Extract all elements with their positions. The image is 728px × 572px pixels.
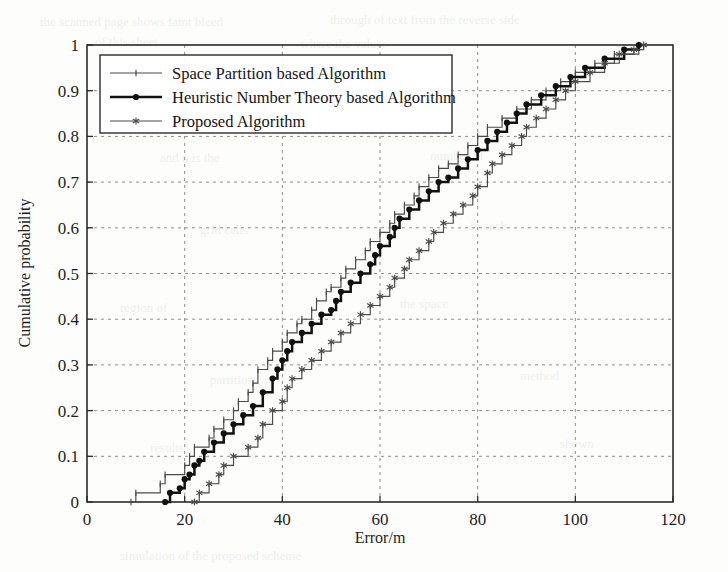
series-marker <box>416 197 422 203</box>
y-tick-label: 0.2 <box>58 402 79 421</box>
series-marker <box>514 110 520 116</box>
x-tick-label: 120 <box>660 510 686 529</box>
series-marker <box>436 179 442 185</box>
y-tick-label: 1 <box>71 36 80 55</box>
series-marker <box>465 156 471 162</box>
y-tick-label: 0 <box>71 493 80 512</box>
series-marker <box>377 243 383 249</box>
series-marker <box>396 216 402 222</box>
series-marker <box>221 430 227 436</box>
series-marker <box>274 366 280 372</box>
series-marker <box>269 376 275 382</box>
series-marker <box>475 147 481 153</box>
y-tick-label: 0.7 <box>58 173 80 192</box>
y-axis-label: Cumulative probability <box>16 199 34 348</box>
series-marker <box>318 312 324 318</box>
y-tick-label: 0.1 <box>58 447 79 466</box>
x-axis-label: Error/m <box>355 529 406 546</box>
x-tick-label: 60 <box>372 510 389 529</box>
series-marker <box>289 339 295 345</box>
series-marker <box>357 270 363 276</box>
series-marker <box>279 357 285 363</box>
series-marker <box>338 289 344 295</box>
series-marker <box>196 458 202 464</box>
series-marker <box>230 421 236 427</box>
series-marker <box>484 138 490 144</box>
series-marker <box>191 462 197 468</box>
series-marker <box>538 92 544 98</box>
series-marker <box>445 174 451 180</box>
series-marker <box>348 280 354 286</box>
x-tick-label: 40 <box>274 510 291 529</box>
series-marker <box>455 165 461 171</box>
y-tick-labels: 00.10.20.30.40.50.60.70.80.91 <box>58 36 80 512</box>
series-marker <box>284 348 290 354</box>
series-marker <box>372 252 378 258</box>
y-tick-label: 0.6 <box>58 219 79 238</box>
series-marker <box>553 83 559 89</box>
series-marker <box>387 234 393 240</box>
series-marker <box>494 129 500 135</box>
x-tick-label: 100 <box>563 510 589 529</box>
cdf-figure: 020406080100120 00.10.20.30.40.50.60.70.… <box>0 0 728 572</box>
legend-label: Space Partition based Algorithm <box>172 64 386 83</box>
y-tick-label: 0.3 <box>58 356 79 375</box>
x-tick-label: 0 <box>83 510 92 529</box>
series-marker <box>260 389 266 395</box>
series-marker <box>426 188 432 194</box>
series-marker <box>299 330 305 336</box>
series-marker <box>406 206 412 212</box>
series-marker <box>504 120 510 126</box>
y-tick-label: 0.5 <box>58 265 79 284</box>
series-marker <box>167 490 173 496</box>
series-marker <box>392 225 398 231</box>
series-marker <box>182 476 188 482</box>
x-tick-label: 80 <box>469 510 486 529</box>
series-marker <box>177 485 183 491</box>
y-tick-label: 0.8 <box>58 127 79 146</box>
legend-label: Heuristic Number Theory based Algorithm <box>172 88 456 107</box>
series-marker <box>523 101 529 107</box>
series-marker <box>333 298 339 304</box>
series-marker <box>328 307 334 313</box>
chart-svg: 020406080100120 00.10.20.30.40.50.60.70.… <box>0 0 728 572</box>
series-marker <box>211 439 217 445</box>
series-marker <box>250 403 256 409</box>
series-marker <box>240 412 246 418</box>
x-tick-labels: 020406080100120 <box>83 510 686 529</box>
y-tick-label: 0.9 <box>58 82 79 101</box>
series-marker <box>367 261 373 267</box>
y-tick-label: 0.4 <box>58 310 80 329</box>
series-marker <box>201 449 207 455</box>
series-marker <box>309 321 315 327</box>
series-marker <box>162 499 168 505</box>
x-tick-label: 20 <box>176 510 193 529</box>
legend: Space Partition based AlgorithmHeuristic… <box>100 55 456 133</box>
series-marker <box>133 94 139 100</box>
series-marker <box>186 471 192 477</box>
legend-label: Proposed Algorithm <box>172 112 306 131</box>
